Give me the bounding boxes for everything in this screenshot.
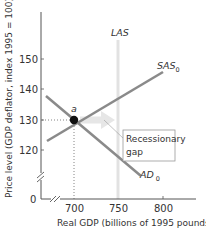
gap-leader-line (104, 120, 124, 139)
y-tick-label-120: 120 (19, 145, 38, 156)
x-axis-break-icon (50, 195, 60, 203)
y-tick-label-150: 150 (19, 54, 38, 65)
ad-label: AD0 (139, 169, 160, 183)
y-tick-label-140: 140 (19, 84, 38, 95)
x-tick-label-750: 750 (109, 203, 128, 214)
x-tick-label-800: 800 (154, 203, 173, 214)
sas-label: SAS0 (157, 60, 180, 74)
origin-label: 0 (30, 194, 36, 205)
point-a-label: a (71, 103, 77, 114)
gap-label-line2: gap (126, 147, 143, 157)
y-axis-title: Price level (GDP deflator, index 1995 = … (4, 0, 14, 198)
las-label: LAS (111, 27, 129, 38)
gap-label-line1: Recessionary (126, 134, 186, 144)
gap-arrow (80, 111, 115, 129)
x-axis-title: Real GDP (billions of 1995 pounds) (57, 218, 206, 228)
chart: LAS SAS0 AD0 a Recessionary gap 150 140 … (0, 0, 206, 237)
equilibrium-point (70, 116, 78, 124)
y-tick-label-130: 130 (19, 115, 38, 126)
x-tick-label-700: 700 (65, 203, 84, 214)
